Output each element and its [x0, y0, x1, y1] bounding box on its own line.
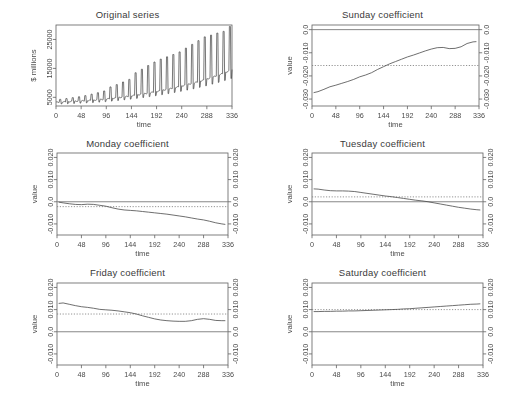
- svg-text:0.0: 0.0: [47, 327, 56, 337]
- panel-title-friday-coefficient: Friday coefficient: [0, 267, 255, 278]
- svg-text:-0.010: -0.010: [47, 344, 56, 364]
- svg-text:0.0: 0.0: [482, 25, 491, 35]
- chart-tuesday-coefficient: 04896144192240288336time0.0200.0100.0-0.…: [255, 133, 510, 261]
- svg-text:48: 48: [77, 240, 85, 249]
- svg-text:0.020: 0.020: [47, 148, 56, 166]
- svg-text:-0.010: -0.010: [231, 214, 240, 234]
- svg-text:48: 48: [77, 370, 85, 379]
- svg-text:288: 288: [201, 111, 213, 120]
- svg-text:96: 96: [356, 111, 364, 120]
- svg-text:48: 48: [77, 111, 85, 120]
- svg-text:48: 48: [332, 111, 340, 120]
- svg-text:192: 192: [149, 370, 161, 379]
- svg-text:0.020: 0.020: [231, 278, 240, 296]
- svg-text:192: 192: [149, 240, 161, 249]
- svg-text:336: 336: [473, 111, 485, 120]
- svg-text:value: value: [285, 185, 294, 204]
- svg-text:-0.010: -0.010: [302, 344, 311, 364]
- svg-text:288: 288: [453, 370, 465, 379]
- svg-text:0.0: 0.0: [231, 197, 240, 207]
- panel-title-saturday-coefficient: Saturday coefficient: [255, 267, 510, 278]
- panel-title-tuesday-coefficient: Tuesday coefficient: [255, 138, 510, 149]
- svg-text:0.020: 0.020: [486, 278, 495, 296]
- panel-title-original-series: Original series: [0, 9, 255, 20]
- svg-text:0.0: 0.0: [302, 197, 311, 207]
- panel-title-monday-coefficient: Monday coefficient: [0, 138, 255, 149]
- svg-text:0.010: 0.010: [486, 171, 495, 189]
- chart-saturday-coefficient: 04896144192240288336time0.0200.0100.0-0.…: [255, 261, 510, 398]
- svg-text:0: 0: [310, 370, 314, 379]
- svg-text:240: 240: [428, 370, 440, 379]
- svg-text:0.010: 0.010: [231, 301, 240, 319]
- svg-text:288: 288: [449, 111, 461, 120]
- svg-text:-0.030: -0.030: [302, 89, 311, 109]
- svg-text:0.010: 0.010: [231, 171, 240, 189]
- svg-text:0: 0: [55, 240, 59, 249]
- svg-text:288: 288: [198, 370, 210, 379]
- svg-text:336: 336: [226, 111, 238, 120]
- svg-text:96: 96: [357, 240, 365, 249]
- svg-text:192: 192: [401, 111, 413, 120]
- svg-text:0.0: 0.0: [47, 197, 56, 207]
- panel-monday-coefficient: Monday coefficient 04896144192240288336t…: [0, 133, 255, 261]
- svg-text:-0.020: -0.020: [482, 66, 491, 86]
- svg-text:0.020: 0.020: [231, 148, 240, 166]
- svg-text:288: 288: [198, 240, 210, 249]
- svg-text:value: value: [30, 185, 39, 204]
- svg-text:-0.030: -0.030: [482, 89, 491, 109]
- chart-monday-coefficient: 04896144192240288336time0.0200.0100.0-0.…: [0, 133, 255, 261]
- svg-text:240: 240: [425, 111, 437, 120]
- svg-text:time: time: [137, 120, 151, 129]
- svg-text:144: 144: [124, 240, 136, 249]
- chart-friday-coefficient: 04896144192240288336time0.0200.0100.0-0.…: [0, 261, 255, 398]
- svg-text:0.020: 0.020: [47, 278, 56, 296]
- svg-text:48: 48: [332, 240, 340, 249]
- svg-text:0.010: 0.010: [486, 301, 495, 319]
- svg-text:-0.010: -0.010: [47, 214, 56, 234]
- svg-text:96: 96: [102, 370, 110, 379]
- svg-text:96: 96: [102, 111, 110, 120]
- svg-text:time: time: [135, 379, 149, 388]
- svg-text:336: 336: [222, 240, 234, 249]
- svg-text:0.0: 0.0: [486, 197, 495, 207]
- panel-friday-coefficient: Friday coefficient 04896144192240288336t…: [0, 261, 255, 398]
- svg-text:time: time: [390, 249, 404, 258]
- svg-text:-0.010: -0.010: [302, 43, 311, 63]
- svg-text:25000: 25000: [46, 29, 55, 49]
- svg-text:0.020: 0.020: [302, 278, 311, 296]
- svg-text:0: 0: [55, 370, 59, 379]
- svg-text:336: 336: [477, 240, 489, 249]
- svg-text:-0.010: -0.010: [486, 344, 495, 364]
- svg-text:144: 144: [124, 370, 136, 379]
- panel-saturday-coefficient: Saturday coefficient 0489614419224028833…: [255, 261, 510, 398]
- figure-grid: Original series 04896144192240288336time…: [0, 0, 510, 398]
- panel-tuesday-coefficient: Tuesday coefficient 04896144192240288336…: [255, 133, 510, 261]
- svg-text:0.010: 0.010: [47, 171, 56, 189]
- svg-text:240: 240: [173, 370, 185, 379]
- svg-text:0.0: 0.0: [302, 327, 311, 337]
- svg-text:0: 0: [310, 240, 314, 249]
- svg-text:144: 144: [379, 370, 391, 379]
- svg-text:192: 192: [151, 111, 163, 120]
- svg-text:5000: 5000: [46, 89, 55, 105]
- svg-text:0.0: 0.0: [302, 25, 311, 35]
- panel-sunday-coefficient: Sunday coefficient 04896144192240288336t…: [255, 0, 510, 133]
- svg-text:96: 96: [357, 370, 365, 379]
- svg-text:144: 144: [125, 111, 137, 120]
- svg-text:288: 288: [453, 240, 465, 249]
- svg-text:value: value: [285, 56, 294, 75]
- svg-text:value: value: [285, 315, 294, 334]
- svg-text:240: 240: [173, 240, 185, 249]
- svg-text:192: 192: [404, 370, 416, 379]
- svg-text:0.020: 0.020: [302, 148, 311, 166]
- svg-text:240: 240: [428, 240, 440, 249]
- svg-text:time: time: [388, 120, 402, 129]
- svg-text:time: time: [390, 379, 404, 388]
- svg-text:0: 0: [54, 111, 58, 120]
- svg-text:-0.010: -0.010: [486, 214, 495, 234]
- svg-text:0: 0: [310, 111, 314, 120]
- svg-text:0.020: 0.020: [486, 148, 495, 166]
- svg-text:0.010: 0.010: [302, 171, 311, 189]
- svg-text:time: time: [135, 249, 149, 258]
- svg-text:-0.010: -0.010: [231, 344, 240, 364]
